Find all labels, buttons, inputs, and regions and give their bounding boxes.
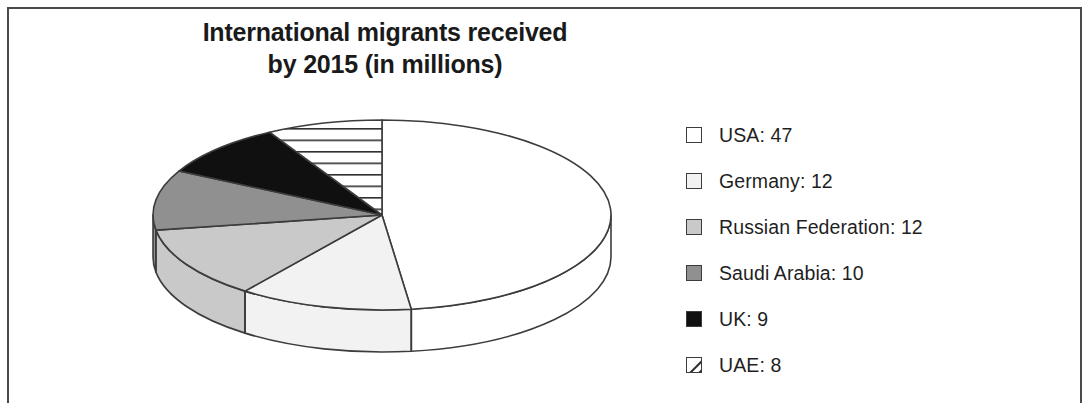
- legend-item-uk[interactable]: UK: 9: [686, 296, 1046, 342]
- legend-label-germany: Germany: 12: [719, 170, 833, 193]
- pie-slices: [153, 120, 611, 352]
- legend-item-usa[interactable]: USA: 47: [686, 112, 1046, 158]
- legend-item-russian-federation[interactable]: Russian Federation: 12: [686, 204, 1046, 250]
- chart-title: International migrants received by 2015 …: [120, 16, 650, 80]
- chart-title-line-1: International migrants received: [120, 16, 650, 48]
- legend-item-germany[interactable]: Germany: 12: [686, 158, 1046, 204]
- legend-swatch-russian-federation: [686, 219, 702, 235]
- legend-item-saudi-arabia[interactable]: Saudi Arabia: 10: [686, 250, 1046, 296]
- legend-swatch-saudi-arabia: [686, 265, 702, 281]
- pie-chart: [140, 105, 640, 403]
- legend-label-russian-federation: Russian Federation: 12: [719, 216, 923, 239]
- chart-figure: International migrants received by 2015 …: [0, 0, 1082, 403]
- legend-swatch-usa: [686, 127, 702, 143]
- legend-item-uae[interactable]: UAE: 8: [686, 342, 1046, 388]
- legend-swatch-uk: [686, 311, 702, 327]
- chart-legend: USA: 47 Germany: 12 Russian Federation: …: [686, 112, 1046, 388]
- pie-chart-svg: [140, 105, 640, 403]
- legend-label-uae: UAE: 8: [719, 354, 781, 377]
- chart-title-line-2: by 2015 (in millions): [120, 48, 650, 80]
- legend-label-uk: UK: 9: [719, 308, 768, 331]
- legend-label-saudi-arabia: Saudi Arabia: 10: [719, 262, 864, 285]
- legend-swatch-germany: [686, 173, 702, 189]
- legend-swatch-uae: [686, 357, 702, 373]
- diagonal-hatch-icon: [686, 357, 702, 373]
- legend-label-usa: USA: 47: [719, 124, 792, 147]
